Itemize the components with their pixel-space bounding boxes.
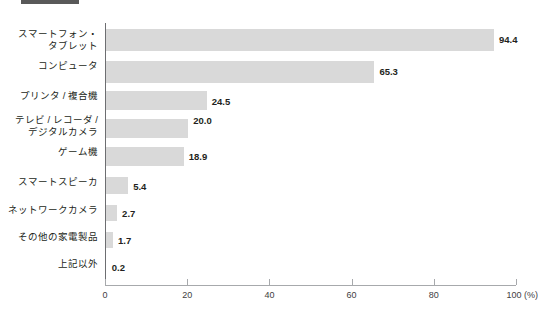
x-axis-tick-label: 60 — [347, 290, 357, 300]
bar — [106, 61, 374, 83]
x-axis-tick — [269, 279, 270, 285]
bar — [106, 119, 188, 138]
category-label: ネットワークカメラ — [0, 204, 98, 216]
bar-value-label: 20.0 — [193, 115, 212, 126]
bar-value-label: 65.3 — [379, 66, 398, 77]
category-label: スマートスピーカ — [0, 176, 98, 188]
category-label: その他の家電製品 — [0, 231, 98, 243]
category-label: スマートフォン・ タブレット — [0, 28, 98, 52]
bar-value-label: 18.9 — [189, 151, 208, 162]
x-axis-line — [105, 285, 516, 286]
x-axis-tick — [434, 279, 435, 285]
x-axis-tick-label: 0 — [102, 290, 107, 300]
x-axis-tick — [352, 279, 353, 285]
bar-value-label: 94.4 — [499, 34, 518, 45]
category-label: コンピュータ — [0, 60, 98, 72]
bar — [106, 205, 117, 221]
bar-value-label: 2.7 — [122, 208, 135, 219]
bar-value-label: 24.5 — [212, 96, 231, 107]
x-axis-tick-label: 80 — [429, 290, 439, 300]
bar — [106, 147, 184, 166]
bar-value-label: 0.2 — [112, 262, 125, 273]
x-axis-tick-label: 40 — [264, 290, 274, 300]
x-axis-tick-label: 20 — [182, 290, 192, 300]
bar — [106, 177, 128, 194]
x-axis-tick-label: 100 (%) — [507, 290, 538, 300]
category-label: テレビ / レコーダ / デジタルカメラ — [0, 114, 98, 138]
bar — [106, 91, 207, 110]
bar — [106, 29, 494, 51]
x-axis-tick — [105, 279, 106, 285]
category-label: 上記以外 — [0, 258, 98, 270]
bar-value-label: 5.4 — [133, 181, 146, 192]
x-axis-tick — [516, 279, 517, 285]
x-axis-tick — [187, 279, 188, 285]
bar — [106, 232, 113, 248]
category-label: ゲーム機 — [0, 146, 98, 158]
category-label: プリンタ / 複合機 — [0, 90, 98, 102]
bar-value-label: 1.7 — [118, 235, 131, 246]
